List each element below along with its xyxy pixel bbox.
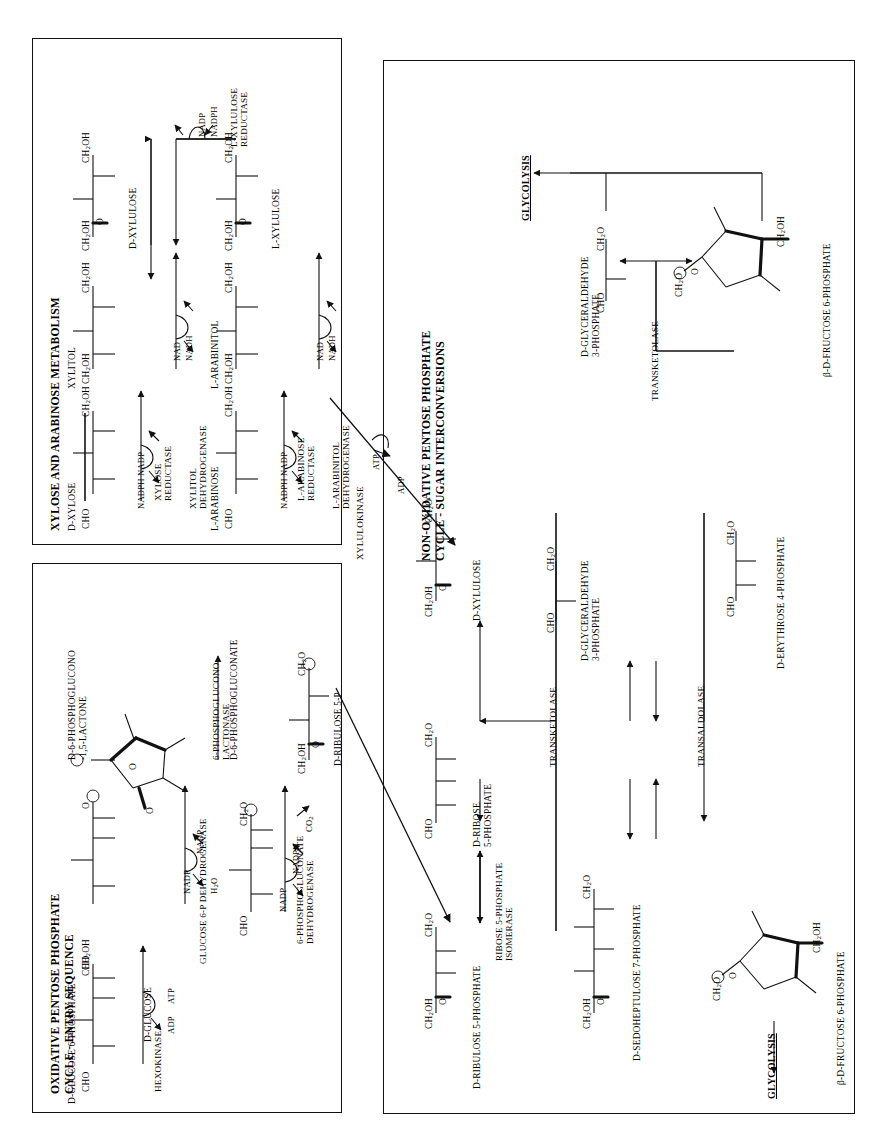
label-op-1: O bbox=[81, 802, 92, 809]
metabolite-l-xylulose-1: L-XYLULOSE bbox=[271, 189, 282, 249]
cofactor-nadp-3: NADP bbox=[196, 830, 206, 854]
label-ch2oh-8: CH2OH bbox=[224, 262, 236, 293]
exit-glycolysis-bottom: GLYCOLYSIS bbox=[766, 1033, 777, 1099]
label-ch2o-p-11: CH2O bbox=[712, 977, 724, 1001]
metabolite-d-ribose-5-phosphate: D-RIBOSE 5-PHOSPHATE bbox=[472, 784, 493, 847]
label-ch2oh-6: CH2OH bbox=[224, 386, 236, 417]
label-ch2oh-5: CH2OH bbox=[81, 132, 93, 163]
cofactor-h2o-1: H2O bbox=[210, 877, 221, 894]
panel3-title-line1: NON-OXIDATIVE PENTOSE PHOSPHATE bbox=[420, 331, 433, 561]
panel1-structures bbox=[33, 39, 341, 544]
label-ch2oh-4: CH2OH bbox=[81, 220, 93, 251]
cofactor-co2-1: CO2 bbox=[305, 816, 316, 832]
metabolite-d-xylulose-2: D-XYLULOSE bbox=[472, 560, 483, 621]
metabolite-dgap-mid: D-GLYCERALDEHYDE 3-PHOSPHATE bbox=[580, 560, 601, 661]
metabolite-d-6-phosphogluconate: D-6-PHOSPHOGLUCONATE bbox=[229, 639, 240, 760]
label-ch2oh-1: CH2OH bbox=[81, 386, 93, 417]
label-ch2oh-7: CH2OH bbox=[224, 353, 236, 384]
panel2-title-line1: OXIDATIVE PENTOSE PHOSPHATE bbox=[49, 894, 62, 1094]
connector-cofactor-adp: ADP bbox=[397, 476, 407, 494]
cofactor-nadph-1: NADPH bbox=[210, 106, 220, 137]
label-cho-7: CHO bbox=[546, 613, 557, 633]
label-ch2o-p-8: CH2O bbox=[726, 521, 738, 545]
enzyme-l-xylulose-reductase: L-XYLULOSE REDUCTASE bbox=[229, 88, 250, 147]
panel-nonoxidative-ppp: NON-OXIDATIVE PENTOSE PHOSPHATE CYCLE - … bbox=[383, 60, 855, 1114]
label-ch2o-p-10: CH2O bbox=[674, 273, 686, 297]
label-ch2oh-3: CH2OH bbox=[81, 262, 93, 293]
label-o-6: O bbox=[596, 998, 607, 1005]
label-ch2o-p-4: CH2O bbox=[424, 913, 436, 937]
label-o-ring-1: O bbox=[128, 763, 139, 770]
label-cho-8: CHO bbox=[726, 597, 737, 617]
panel3-title-line2: CYCLE - SUGAR INTERCONVERSIONS bbox=[434, 341, 447, 561]
label-ch2oh-2: CH2OH bbox=[81, 353, 93, 384]
enzyme-transaldolase: TRANSALDOLASE bbox=[696, 686, 706, 767]
label-ch2o-p-6: CH2O bbox=[546, 547, 558, 571]
connector-cofactor-atp: ATP bbox=[372, 454, 382, 470]
label-cho-9: CHO bbox=[596, 293, 607, 313]
panel-oxidative-ppp: OXIDATIVE PENTOSE PHOSPHATE CYCLE - ENTR… bbox=[32, 563, 342, 1113]
cofactor-nadh-2: NADH bbox=[328, 335, 338, 361]
metabolite-d-ribulose-5-phosphate: D-RIBULOSE 5-PHOSPHATE bbox=[472, 966, 483, 1089]
metabolite-d-ribulose-5-p: D-RIBULOSE 5-P bbox=[333, 692, 344, 766]
metabolite-l-arabinose: L-ARABINOSE bbox=[210, 466, 221, 531]
metabolite-d-sedoheptulose-7-phosphate: D-SEDOHEPTULOSE 7-PHOSPHATE bbox=[632, 904, 643, 1061]
label-ch2o-p-1: CH2O bbox=[239, 802, 251, 826]
label-o-3: O bbox=[311, 741, 322, 748]
metabolite-d-glucose-6-phosphate: D-GLUCOSE 6-PHOSPHATE bbox=[67, 983, 78, 1104]
label-ch2o-p-9: CH2O bbox=[596, 227, 608, 251]
label-ch2oh-14: CH2OH bbox=[424, 998, 436, 1029]
metabolite-bdf6p-bottom: β-D-FRUCTOSE 6-PHOSPHATE bbox=[836, 951, 847, 1085]
enzyme-transketolase-1: TRANSKETOLASE bbox=[548, 687, 558, 767]
enzyme-l-arabinose-reductase: L-ARABINOSE REDUCTASE bbox=[296, 438, 317, 501]
label-o-5: O bbox=[438, 998, 449, 1005]
cofactor-adp-1: ADP bbox=[167, 1016, 177, 1034]
metabolite-d-xylose: D-XYLOSE bbox=[67, 483, 78, 531]
metabolite-d-xylulose-1: D-XYLULOSE bbox=[128, 188, 139, 249]
enzyme-xylose-reductase: XYLOSE REDUCTASE bbox=[153, 446, 174, 501]
cofactor-nadph-nadp-1: NADPH NADP bbox=[137, 452, 147, 509]
label-cho-5: CHO bbox=[239, 916, 250, 936]
label-o-1: O bbox=[95, 218, 106, 225]
cofactor-nadh-1: NADH bbox=[185, 335, 195, 361]
label-cho-3: CHO bbox=[81, 1072, 92, 1092]
label-ch2oh-9: CH2OH bbox=[224, 220, 236, 251]
label-ch2o-p-5: CH2O bbox=[424, 723, 436, 747]
metabolite-bdf6p-top: β-D-FRUCTOSE 6-PHOSPHATE bbox=[822, 243, 833, 377]
label-ch2oh-11: CH2OH bbox=[81, 939, 93, 970]
metabolite-xylitol: XYLITOL bbox=[67, 347, 78, 389]
label-ch2oh-15: CH2OH bbox=[582, 998, 594, 1029]
cofactor-nadp-2: NADP bbox=[183, 870, 193, 894]
label-cho-6: CHO bbox=[424, 819, 435, 839]
label-o-ring-4: O bbox=[728, 972, 739, 979]
label-o-2: O bbox=[238, 218, 249, 225]
metabolite-lactone: D-6-PHOSPHOGLUCONO -1,5-LACTONE bbox=[67, 650, 88, 760]
metabolite-d-glucose: D-GLUCOSE bbox=[143, 987, 154, 1042]
connector-label-xylulokinase: XYLULOKINASE bbox=[355, 486, 365, 560]
label-cho-2: CHO bbox=[224, 509, 235, 529]
cofactor-nadp-1: NADP bbox=[198, 113, 208, 137]
enzyme-xylitol-dehydrogenase: XYLITOL DEHYDROGENASE bbox=[188, 425, 209, 509]
label-ch2oh-16: CH2OH bbox=[776, 216, 788, 247]
panel-xylose-arabinose: XYLOSE AND ARABINOSE METABOLISM D-XYLOSE… bbox=[32, 38, 342, 545]
cofactor-nad-2: NAD bbox=[316, 342, 326, 361]
label-cho-1: CHO bbox=[81, 509, 92, 529]
cofactor-nadph-nadp-2: NADPH NADP bbox=[280, 452, 290, 509]
label-ch2oh-12: CH2OH bbox=[297, 743, 309, 774]
enzyme-transketolase-2: TRANSKETOLASE bbox=[650, 321, 660, 401]
metabolite-d-erythrose-4-phosphate: D-ERYTHROSE 4-PHOSPHATE bbox=[776, 537, 787, 669]
label-ch2oh-13: CH2OH bbox=[424, 586, 436, 617]
label-ch2o-p-2: CH2O bbox=[297, 652, 309, 676]
enzyme-ribose-5-phosphate-isomerase: RIBOSE 5-PHOSPHATE ISOMERASE bbox=[494, 863, 515, 961]
label-ch2o-p-3: CH2O bbox=[424, 499, 436, 523]
label-ch2oh-17: CH2OH bbox=[812, 922, 824, 953]
cofactor-nad-1: NAD bbox=[173, 342, 183, 361]
enzyme-l-arabinitol-dehydrogenase: L-ARABINITOL DEHYDROGENASE bbox=[331, 425, 352, 509]
label-o-ring-2: O bbox=[145, 807, 156, 814]
cofactor-nadp-4: NADP bbox=[279, 888, 289, 912]
label-o-ring-3: O bbox=[690, 268, 701, 275]
label-ch2o-p-7: CH2O bbox=[582, 875, 594, 899]
exit-glycolysis-top: GLYCOLYSIS bbox=[520, 155, 531, 221]
cofactor-atp-1: ATP bbox=[167, 988, 177, 1004]
panel1-title: XYLOSE AND ARABINOSE METABOLISM bbox=[49, 297, 62, 531]
